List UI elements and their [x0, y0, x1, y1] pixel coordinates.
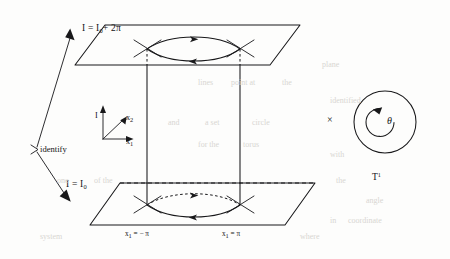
ghost-text-14: angle [366, 196, 383, 205]
ghost-text-18: where [300, 232, 320, 241]
ghost-text-16: coordinate [348, 216, 382, 225]
top-plane-level-label: I = I0+ 2π [82, 24, 121, 34]
theta-label: θ [387, 116, 392, 126]
ghost-text-2: the [282, 78, 292, 87]
axis-I-head [100, 105, 106, 113]
ghost-text-13: the [336, 176, 346, 185]
ghost-text-15: in [330, 216, 336, 225]
bottom-plane-level-label: I = I0 [66, 180, 87, 190]
ghost-text-8: one [57, 176, 69, 185]
axis-label-I: I [95, 112, 98, 120]
top-loop-lower-arrow [189, 59, 197, 65]
diagram-canvas [0, 0, 450, 259]
identify-arrow-down-shaft [37, 152, 66, 196]
ghost-text-17: system [40, 232, 62, 241]
torus-circle-group [354, 91, 416, 153]
ghost-text-12: with [330, 150, 344, 159]
left-section-label: x1 = − π [125, 231, 149, 239]
identify-label: identify [40, 145, 67, 154]
ghost-text-9: of the [94, 176, 112, 185]
ghost-text-3: and [168, 118, 180, 127]
ghost-text-0: lines [198, 78, 213, 87]
ghost-text-7: torus [243, 140, 259, 149]
top-loop-lower-arc [147, 49, 240, 61]
axis-x2-shaft [103, 120, 123, 139]
bottom-plane-outline-solid [90, 183, 315, 225]
ghost-text-4: a set [205, 118, 219, 127]
axis-label-x2: x2 [126, 114, 133, 123]
identify-arrow-up-shaft [37, 35, 71, 147]
ghost-text-11: identified [330, 96, 361, 105]
figure-root: I = I0+ 2π I = I0 identify I x2 x1 x1 = … [0, 0, 450, 259]
bottom-separatrix-loop [147, 193, 240, 221]
torus-label: T1 [372, 172, 381, 183]
torus-outer-circle [354, 91, 416, 153]
identify-arrow-down-head [60, 190, 71, 202]
bottom-loop-lower-arrow [189, 215, 197, 221]
ghost-text-10: plane [322, 60, 339, 69]
ghost-text-5: circle [252, 118, 270, 127]
ghost-text-6: for the [198, 140, 219, 149]
bottom-loop-lower-arc [147, 205, 240, 217]
ghost-text-1: point at [231, 78, 255, 87]
identify-arrow-up-head [65, 29, 74, 41]
right-section-label: x1 = π [222, 231, 240, 239]
bottom-plane [90, 183, 315, 225]
cross-product-symbol: × [327, 115, 333, 125]
axis-label-x1: x1 [126, 138, 133, 147]
